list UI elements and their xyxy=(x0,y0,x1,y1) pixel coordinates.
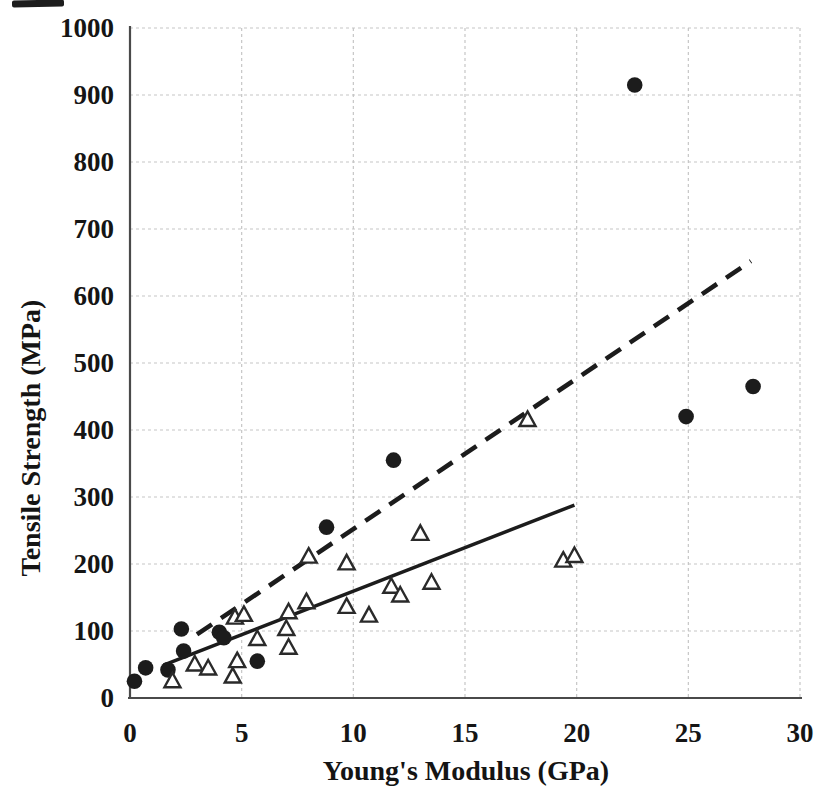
data-point-triangle xyxy=(249,631,265,646)
data-point-triangle xyxy=(361,607,377,622)
data-point-circle xyxy=(216,630,232,646)
data-point-circle xyxy=(127,673,143,689)
data-point-triangle xyxy=(339,598,355,613)
data-point-circle xyxy=(174,621,190,637)
y-tick-label: 200 xyxy=(74,549,115,579)
y-tick-label: 900 xyxy=(74,80,115,110)
data-point-triangle xyxy=(278,620,294,635)
data-point-triangle xyxy=(412,525,428,540)
y-tick-label: 300 xyxy=(74,482,115,512)
y-axis-title: Tensile Strength (MPa) xyxy=(15,300,47,577)
y-tick-label: 500 xyxy=(74,348,115,378)
y-tick-label: 600 xyxy=(74,281,115,311)
data-point-triangle xyxy=(225,668,241,683)
data-point-circle xyxy=(745,379,761,395)
data-point-triangle xyxy=(339,555,355,570)
data-point-triangle xyxy=(200,660,216,675)
x-axis-title: Young's Modulus (GPa) xyxy=(323,755,609,787)
y-tick-label: 100 xyxy=(74,616,115,646)
data-point-triangle xyxy=(229,653,245,668)
data-point-triangle xyxy=(281,604,297,619)
x-tick-label: 25 xyxy=(675,718,702,748)
x-tick-label: 30 xyxy=(787,718,814,748)
x-tick-label: 15 xyxy=(452,718,479,748)
data-point-triangle xyxy=(281,639,297,654)
x-tick-label: 0 xyxy=(123,718,137,748)
data-point-triangle xyxy=(298,594,314,609)
scatter-plot: 0100200300400500600700800900100005101520… xyxy=(0,0,824,808)
data-point-circle xyxy=(176,643,192,659)
data-point-circle xyxy=(627,77,643,93)
y-tick-label: 800 xyxy=(74,147,115,177)
data-point-circle xyxy=(678,409,694,425)
data-point-triangle xyxy=(301,548,317,563)
x-tick-label: 20 xyxy=(563,718,590,748)
y-tick-label: 700 xyxy=(74,214,115,244)
x-tick-label: 10 xyxy=(340,718,367,748)
data-point-circle xyxy=(319,519,335,535)
y-tick-label: 0 xyxy=(101,683,115,713)
data-point-triangle xyxy=(187,656,203,671)
data-point-circle xyxy=(249,653,265,669)
y-tick-label: 1000 xyxy=(60,13,114,43)
filled-circle-series-trendline xyxy=(197,261,751,634)
data-point-circle xyxy=(138,660,154,676)
chart-figure: 0100200300400500600700800900100005101520… xyxy=(0,0,824,808)
data-point-circle xyxy=(386,452,402,468)
data-point-triangle xyxy=(424,574,440,589)
y-tick-label: 400 xyxy=(74,415,115,445)
x-tick-label: 5 xyxy=(235,718,249,748)
data-point-triangle xyxy=(566,547,582,562)
